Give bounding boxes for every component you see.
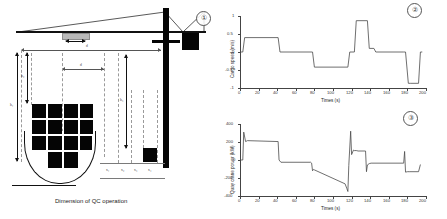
dimension-h2-line	[27, 53, 28, 103]
chart2-xtick: 40	[273, 198, 278, 203]
guide-line	[104, 53, 105, 157]
container	[64, 152, 78, 168]
axis-tick	[389, 196, 390, 199]
chart2-xtick: 20	[255, 198, 260, 203]
chart2-xtick: 120	[346, 198, 353, 203]
axis-tick	[238, 196, 241, 197]
container	[48, 104, 62, 118]
chart1-xtick: 140	[364, 90, 371, 95]
diagram-caption: Dimension of QC operation	[55, 198, 127, 204]
chart1-xlabel: Times (s)	[321, 98, 340, 103]
guide-line	[131, 90, 132, 163]
chart1-xtick: 0	[238, 90, 240, 95]
axis-tick	[277, 196, 278, 199]
chart2-xtick: 80	[310, 198, 315, 203]
container	[80, 136, 92, 150]
axis-tick	[238, 16, 241, 17]
dimension-d2-line	[62, 69, 104, 70]
dimension-d-label: d	[86, 44, 88, 48]
badge-2: ②	[407, 3, 422, 18]
axis-tick	[238, 160, 241, 161]
axis-tick	[370, 88, 371, 91]
container	[48, 136, 62, 150]
chart1-ylabel: Cargo speed (m/s)	[230, 40, 235, 78]
axis-tick	[240, 196, 241, 199]
bay-label-x2: x₂	[121, 168, 124, 172]
axis-tick	[238, 142, 241, 143]
axis-tick	[352, 88, 353, 91]
axis-tick	[238, 124, 241, 125]
chart2-xtick: 200	[419, 198, 426, 203]
axis-tick	[314, 196, 315, 199]
axis-tick	[240, 88, 241, 91]
chart1-xtick: 20	[255, 90, 260, 95]
dimension-h2-label: h₂	[21, 74, 24, 78]
chart1-xtick: 80	[310, 90, 315, 95]
container	[64, 104, 78, 118]
chart1-xtick: 200	[419, 90, 426, 95]
dimension-d2-label: d	[80, 63, 82, 67]
guide-line	[143, 90, 144, 148]
axis-tick	[407, 196, 408, 199]
axis-tick	[314, 88, 315, 91]
machinery-house	[182, 33, 199, 50]
axis-tick	[426, 88, 427, 91]
chart2-ylabel: Quay crane power (kW)	[230, 145, 235, 194]
guide-line	[157, 90, 158, 163]
badge-3: ③	[403, 111, 418, 126]
qc-operation-diagram: d d h₁ h₂ h₃ x₁ x₂ x₃ x₄	[0, 0, 224, 219]
chart2-xtick: 100	[327, 198, 334, 203]
bay-label-x4: x₄	[148, 168, 151, 172]
chart1-xtick: 40	[273, 90, 278, 95]
crane-mast	[163, 8, 169, 168]
axis-tick	[389, 88, 390, 91]
container	[64, 120, 78, 134]
axis-tick	[238, 34, 241, 35]
container	[32, 136, 46, 150]
container	[80, 120, 93, 134]
chart1-xtick: 180	[401, 90, 408, 95]
container	[64, 136, 78, 150]
badge-1: ①	[196, 11, 211, 26]
container	[48, 152, 62, 168]
bay-label-x1: x₁	[106, 168, 109, 172]
bay-label-x3: x₃	[134, 168, 137, 172]
axis-tick	[407, 88, 408, 91]
chart2-xtick: 180	[401, 198, 408, 203]
boom-bottom-chord	[16, 31, 206, 33]
dimension-h3-line	[126, 55, 127, 148]
axis-tick	[426, 196, 427, 199]
dimension-h3-label: h₃	[120, 98, 123, 102]
guide-line	[21, 50, 22, 162]
axis-tick	[296, 196, 297, 199]
apron-line-lower	[100, 178, 165, 179]
axis-tick	[333, 196, 334, 199]
chart2-xtick: 140	[364, 198, 371, 203]
chart1-ytick: -1	[230, 85, 234, 90]
chart1-ytick: 0.5	[227, 31, 233, 36]
chart1-xtick: 160	[383, 90, 390, 95]
axis-tick	[333, 88, 334, 91]
dimension-h1-label: h₁	[10, 103, 13, 107]
guide-line	[118, 53, 119, 163]
axis-tick	[352, 196, 353, 199]
chart1-xtick: 120	[346, 90, 353, 95]
cargo-speed-chart: 1 0.5 0 -0.5 -1 0 20 40 60 80 100 120 14…	[224, 0, 447, 108]
crane-cross-beam	[152, 40, 180, 43]
axis-tick	[259, 196, 260, 199]
axis-tick	[277, 88, 278, 91]
landside-container	[143, 148, 157, 162]
apron-line	[100, 163, 165, 164]
dimension-d-line	[21, 50, 161, 51]
quay-ground-line	[12, 185, 76, 186]
axis-tick	[296, 88, 297, 91]
figure-panel: d d h₁ h₂ h₃ x₁ x₂ x₃ x₄	[0, 0, 447, 219]
container	[32, 104, 46, 118]
axis-tick	[238, 52, 241, 53]
container	[48, 120, 62, 134]
chart2-series-line	[240, 124, 426, 196]
container	[80, 104, 93, 118]
quay-crane-power-chart: 400 200 0 -200 -400 0 20 40 60 80 100 12…	[224, 110, 447, 219]
axis-tick	[238, 70, 241, 71]
trolley-travel-arrow	[66, 41, 85, 42]
